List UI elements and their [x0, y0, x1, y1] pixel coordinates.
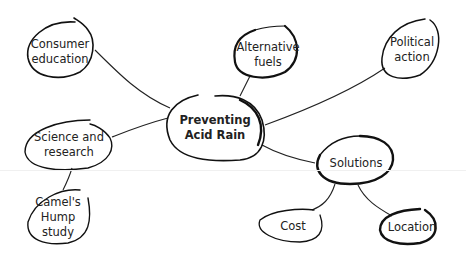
node-label-line: Camel's: [35, 195, 81, 210]
node-political-action: Political action: [390, 35, 434, 65]
edge-center-consumer-education: [95, 50, 170, 108]
node-camels-hump-study: Camel's Hump study: [35, 195, 81, 240]
edge-center-solutions: [262, 145, 315, 163]
node-science-and-research: Science and research: [34, 130, 104, 160]
node-label-line: Cost: [280, 219, 306, 234]
node-label-line: research: [34, 145, 104, 160]
node-consumer-education: Consumer education: [31, 37, 90, 67]
node-label-line: Science and: [34, 130, 104, 145]
edge-center-science-and-research: [112, 118, 168, 137]
node-alternative-fuels: Alternative fuels: [236, 40, 299, 70]
node-label-line: Hump: [35, 210, 81, 225]
node-label-line: Political: [390, 35, 434, 50]
node-location: Location: [388, 220, 437, 235]
node-label-line: Acid Rain: [179, 128, 250, 143]
node-label-line: fuels: [236, 55, 299, 70]
node-label-line: action: [390, 50, 434, 65]
node-label-line: Consumer: [31, 37, 90, 52]
edge-solutions-location: [358, 185, 392, 216]
edge-center-political-action: [265, 68, 385, 125]
divider: [0, 170, 466, 171]
mind-map: Preventing Acid Rain Consumer education …: [0, 0, 466, 256]
node-cost: Cost: [280, 219, 306, 234]
node-label-line: study: [35, 225, 81, 240]
node-preventing-acid-rain: Preventing Acid Rain: [179, 113, 250, 143]
edge-science-camels-hump: [63, 168, 72, 190]
edge-center-alternative-fuels: [240, 76, 250, 96]
node-label-line: education: [31, 52, 90, 67]
node-solutions: Solutions: [330, 156, 383, 171]
node-label-line: Location: [388, 220, 437, 235]
node-label-line: Preventing: [179, 113, 250, 128]
node-label-line: Alternative: [236, 40, 299, 55]
node-label-line: Solutions: [330, 156, 383, 171]
edge-solutions-cost: [312, 184, 335, 210]
